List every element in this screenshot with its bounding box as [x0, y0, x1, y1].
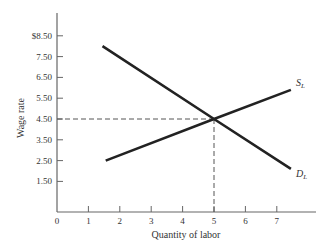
y-tick-label: 4.50: [36, 114, 52, 124]
x-tick-label: 6: [243, 216, 248, 226]
y-tick-label: 5.50: [36, 93, 52, 103]
y-tick-label: 2.50: [36, 156, 52, 166]
x-tick-label: 4: [180, 216, 185, 226]
x-tick-label: 0: [55, 216, 60, 226]
axes: [57, 13, 316, 212]
y-tick-label: 3.50: [36, 135, 52, 145]
x-tick-label: 3: [149, 216, 154, 226]
curves: [103, 46, 291, 169]
demand-label: DL: [295, 168, 307, 181]
labor-market-chart: $8.507.506.505.504.503.502.501.50 012345…: [0, 0, 333, 252]
x-axis-title: Quantity of labor: [152, 229, 222, 240]
x-tick-label: 5: [212, 216, 217, 226]
y-tick-label: 1.50: [36, 176, 52, 186]
y-ticks: $8.507.506.505.504.503.502.501.50: [32, 31, 63, 187]
supply-label: SL: [296, 77, 305, 90]
y-tick-label: 7.50: [36, 52, 52, 62]
y-tick-label: $8.50: [32, 31, 53, 41]
x-tick-label: 7: [275, 216, 280, 226]
x-ticks: 01234567: [55, 206, 280, 226]
y-tick-label: 6.50: [36, 72, 52, 82]
x-tick-label: 2: [118, 216, 123, 226]
x-tick-label: 1: [86, 216, 91, 226]
y-axis-title: Wage rate: [15, 97, 26, 138]
equilibrium-guides: [57, 119, 214, 212]
curve-labels: SLDL: [295, 77, 307, 181]
